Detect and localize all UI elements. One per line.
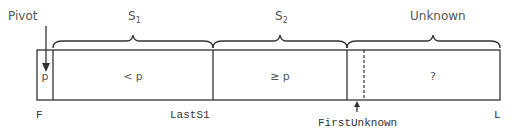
unknown-cell-value: ? (430, 70, 436, 83)
pivot-label: Pivot (8, 9, 38, 23)
unknown-label: Unknown (410, 9, 466, 23)
unknown-brace (347, 35, 500, 48)
s1-cell-value: < p (123, 70, 143, 83)
s2-cell-value: ≥ p (270, 70, 290, 83)
first-index-label: F (36, 109, 43, 121)
pivot-cell-value: p (42, 70, 49, 83)
s2-label: S2 (275, 9, 288, 25)
first-unknown-arrow-icon (354, 101, 360, 107)
s2-brace (213, 35, 347, 48)
partition-diagram: Pivot S1 S2 Unknown p < p ≥ p ? F LastS1… (0, 0, 526, 130)
first-unknown-label: FirstUnknown (318, 117, 397, 129)
s1-label: S1 (128, 9, 141, 25)
last-index-label: L (494, 109, 501, 121)
last-s1-label: LastS1 (170, 109, 210, 121)
s1-brace (53, 35, 213, 48)
